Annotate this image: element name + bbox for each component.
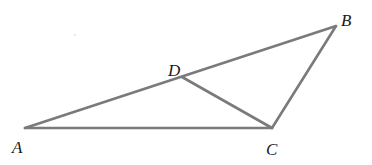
triangle-diagram: A B C D [0,0,372,165]
label-a: A [11,138,23,157]
segment-bc [272,26,336,128]
segments-group [25,26,336,128]
segment-ab [25,26,336,128]
diagram-svg: A B C D [0,0,372,165]
label-c: C [266,140,278,159]
label-d: D [167,61,181,80]
segment-dc [182,77,272,128]
stray-dot [74,34,76,36]
labels-group: A B C D [11,11,352,159]
label-b: B [341,11,352,30]
